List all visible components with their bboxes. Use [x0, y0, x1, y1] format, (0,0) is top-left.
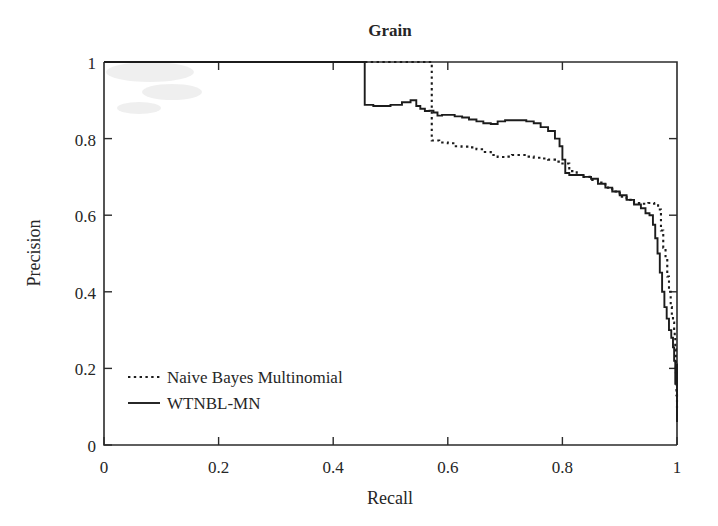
- chart-figure: Grain: [0, 0, 718, 526]
- y-tick-label-1: 0.2: [75, 360, 96, 379]
- x-tick-labels: 0 0.2 0.4 0.6 0.8 1: [100, 458, 682, 477]
- chart-legend: Naive Bayes Multinomial WTNBL-MN: [128, 368, 343, 413]
- legend-label-wtnbl-mn: WTNBL-MN: [167, 394, 260, 413]
- precision-recall-chart: Grain: [0, 0, 718, 526]
- y-axis-title: Precision: [24, 220, 44, 287]
- y-tick-label-4: 0.8: [75, 131, 96, 150]
- y-tick-label-5: 1: [88, 54, 97, 73]
- x-tick-label-0: 0: [100, 458, 109, 477]
- y-tick-label-2: 0.4: [75, 284, 97, 303]
- y-tick-label-0: 0: [88, 437, 97, 456]
- x-tick-label-3: 0.6: [437, 458, 458, 477]
- y-axis-ticks: [104, 62, 677, 445]
- y-tick-label-3: 0.6: [75, 207, 96, 226]
- x-axis-ticks: [104, 62, 677, 445]
- x-tick-label-5: 1: [673, 458, 682, 477]
- x-tick-label-2: 0.4: [323, 458, 345, 477]
- x-tick-label-1: 0.2: [208, 458, 229, 477]
- y-tick-labels: 0 0.2 0.4 0.6 0.8 1: [75, 54, 97, 456]
- chart-title: Grain: [368, 21, 412, 40]
- x-axis-title: Recall: [367, 488, 413, 508]
- legend-label-naive-bayes-multinomial: Naive Bayes Multinomial: [167, 368, 343, 387]
- x-tick-label-4: 0.8: [552, 458, 573, 477]
- series-naive-bayes-multinomial-line: [104, 62, 677, 411]
- scan-artifacts: [106, 62, 202, 114]
- plot-axes: [104, 62, 677, 445]
